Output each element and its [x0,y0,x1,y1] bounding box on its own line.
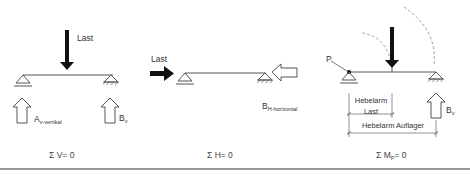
pivot-leader-line [331,61,347,71]
equation-sum-v: Σ V= 0 [49,150,74,161]
pin-support-icon [14,75,32,86]
load-label: Last [77,34,93,43]
roller-support-icon [103,75,119,85]
equation-sum-h: Σ H= 0 [207,150,233,161]
diagram-canvas [0,0,470,175]
reaction-a-label: Av-vertikal [34,115,62,126]
lever-arm-support-label: Hebelarm Auflager [351,122,435,130]
load-arrow-down-icon [60,30,74,70]
bottom-divider [0,168,470,170]
pivot-label: P [326,55,332,64]
load-arrow-right-icon [150,66,174,81]
reaction-arrow-up-icon [101,98,119,123]
reaction-b-label: Bv [446,106,454,117]
load-arrow-down-icon [385,27,399,72]
roller-support-icon [428,72,444,82]
reaction-arrow-left-icon [272,64,297,81]
horizontal-diagram [150,64,297,84]
pin-support-icon [176,73,194,84]
reaction-b-label: BH-horizontal [262,102,297,113]
reaction-arrow-up-icon [427,93,445,118]
roller-support-icon [257,73,273,83]
reaction-b-label: Bv [119,114,127,125]
moment-diagram [331,7,445,137]
rotation-arc-icon [362,33,391,62]
reaction-arrow-up-icon [13,98,31,123]
vertical-diagram [13,30,119,123]
lever-arm-load-label: HebelarmLast [351,95,391,117]
load-label: Last [151,55,167,64]
rotation-arc-icon [404,7,434,66]
equation-sum-m: Σ MP= 0 [376,150,406,161]
